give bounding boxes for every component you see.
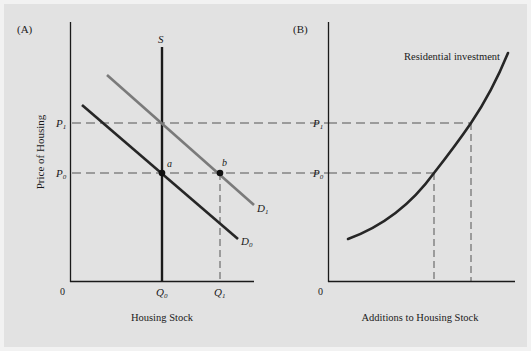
residential-investment-curve	[348, 53, 508, 239]
panel-b-p0-label: P0	[312, 167, 324, 181]
panel-b-origin-label: 0	[318, 286, 323, 297]
supply-label: S	[158, 33, 164, 45]
panel-b-label: (B)	[293, 23, 308, 36]
d0-label: D0	[240, 235, 253, 249]
housing-market-diagram: (A) S D1 D0 a b P1 P0 Q0 Q1 0 Housing St…	[0, 0, 531, 351]
demand-curve-d1	[107, 75, 254, 205]
panel-a-label: (A)	[17, 23, 33, 36]
d1-label: D1	[256, 202, 268, 216]
point-b	[217, 170, 224, 177]
panel-b-x-axis-label: Additions to Housing Stock	[362, 312, 480, 323]
point-a	[159, 170, 166, 177]
panel-a-origin-label: 0	[60, 286, 65, 297]
panel-a-p0-label: P0	[55, 167, 67, 181]
panel-a-y-axis-label: Price of Housing	[34, 114, 46, 189]
panel-a-x-axis-label: Housing Stock	[131, 312, 194, 323]
panel-a: (A) S D1 D0 a b P1 P0 Q0 Q1 0 Housing St…	[17, 22, 328, 323]
residential-investment-label: Residential investment	[404, 51, 500, 62]
panel-b-p1-label: P1	[312, 117, 323, 131]
point-a-label: a	[167, 158, 172, 169]
q1-label: Q1	[214, 286, 225, 300]
q0-label: Q0	[156, 286, 168, 300]
point-b-label: b	[222, 157, 227, 168]
panel-a-p1-label: P1	[55, 117, 66, 131]
